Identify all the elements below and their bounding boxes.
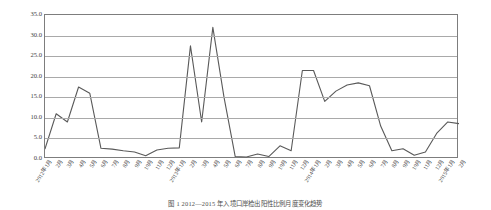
y-axis-tick-label: 30.0: [4, 31, 44, 39]
gridline: [45, 138, 457, 139]
y-axis-tick-label: 0.0: [4, 154, 44, 162]
y-axis-tick-label: 10.0: [4, 113, 44, 121]
data-series-line: [45, 15, 459, 159]
gridline: [45, 77, 457, 78]
figure-caption: 图 1 2012—2015 年入境口岸检出阳性比例月度变化趋势: [0, 199, 491, 210]
y-axis-tick-label: 15.0: [4, 92, 44, 100]
y-axis-tick-labels: 35.030.025.020.015.010.05.00.0: [0, 0, 44, 172]
gridline: [45, 36, 457, 37]
y-axis-tick-label: 25.0: [4, 51, 44, 59]
y-axis-tick-label: 5.0: [4, 133, 44, 141]
gridline: [45, 56, 457, 57]
y-axis-tick-label: 20.0: [4, 72, 44, 80]
chart-figure: EC入境口岸检出阳性比例（%） 35.030.025.020.015.010.0…: [0, 0, 491, 210]
gridline: [45, 97, 457, 98]
gridline: [45, 118, 457, 119]
y-axis-tick-label: 35.0: [4, 10, 44, 18]
plot-area: [44, 14, 458, 158]
